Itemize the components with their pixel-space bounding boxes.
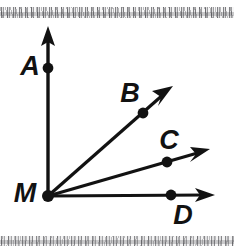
point-a-label: A bbox=[19, 51, 40, 81]
ray-ma: A bbox=[19, 26, 55, 196]
point-b-label: B bbox=[120, 78, 140, 108]
point-a-dot bbox=[43, 63, 54, 74]
ray-md-line bbox=[48, 195, 205, 196]
point-b-dot bbox=[138, 108, 149, 119]
figure-canvas: A B C D M bbox=[0, 0, 234, 247]
point-d-dot bbox=[166, 190, 177, 201]
geometry-diagram: A B C D M bbox=[0, 0, 234, 247]
point-c-label: C bbox=[159, 125, 179, 155]
ray-mc: C bbox=[48, 125, 210, 196]
ray-md: D bbox=[48, 188, 215, 230]
vertex-m-dot bbox=[42, 190, 54, 202]
point-c-dot bbox=[162, 157, 173, 168]
point-d-label: D bbox=[173, 200, 193, 230]
vertex-m-label: M bbox=[14, 178, 37, 208]
